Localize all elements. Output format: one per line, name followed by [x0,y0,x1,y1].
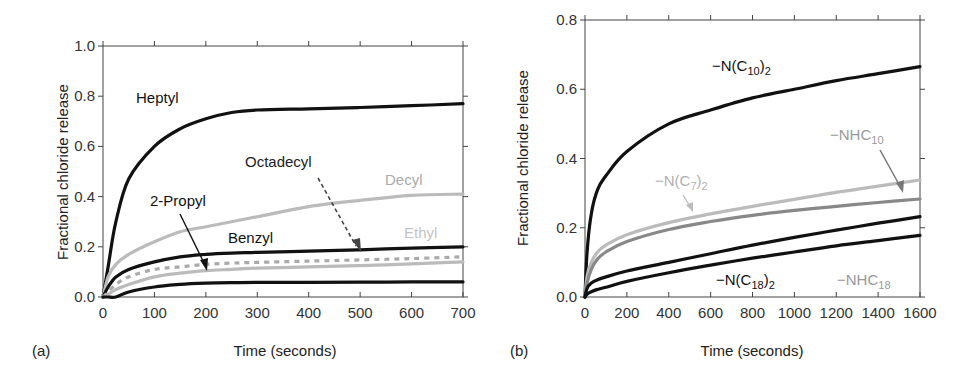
x-tick-label: 0 [581,304,589,321]
y-tick-label: 0.6 [556,80,577,97]
x-tick-label: 400 [296,304,321,321]
series-line [103,282,463,297]
x-tick-label: 400 [656,304,681,321]
nhc10-arrow-icon [880,150,901,188]
y-tick-label: 0.2 [74,238,95,255]
series-line [103,247,463,297]
label-n-c7-2: −N(C7)2 [655,172,708,192]
y-tick-label: 0.4 [74,188,95,205]
n-c7-arrowhead-icon [686,202,693,212]
x-tick-label: 100 [142,304,167,321]
series-line [585,67,920,297]
label-heptyl: Heptyl [136,89,179,106]
label-octadecyl: Octadecyl [245,153,312,170]
y-tick-label: 0.4 [556,150,577,167]
x-tick-label: 200 [193,304,218,321]
x-tick-label: 1400 [861,304,894,321]
y-tick-label: 0.8 [556,11,577,28]
label-2-propyl: 2-Propyl [150,192,206,209]
x-tick-label: 300 [245,304,270,321]
y-axis-label-a: Fractional chloride release [54,84,71,260]
data-lines-b [585,67,920,297]
label-decyl: Decyl [385,171,423,188]
label-ethyl: Ethyl [404,224,437,241]
panel-label-a: (a) [32,342,50,359]
x-tick-label: 500 [348,304,373,321]
label-benzyl: Benzyl [228,229,273,246]
x-tick-label: 600 [399,304,424,321]
x-tick-label: 800 [740,304,765,321]
x-tick-label: 700 [450,304,475,321]
figure: 01002003004005006007000.00.20.40.60.81.0… [0,0,963,378]
series-line [103,262,463,297]
panel-label-b: (b) [510,342,528,359]
y-axis-label-b: Fractional chloride release [514,70,531,246]
octadecyl-arrow-icon [318,178,356,246]
plot-frame-b [585,20,920,297]
y-tick-label: 1.0 [74,37,95,54]
x-axis-label-a: Time (seconds) [234,342,337,359]
x-tick-label: 200 [614,304,639,321]
x-tick-label: 0 [99,304,107,321]
chart-panel-b: 020040060080010001200140016000.00.20.40.… [510,11,937,359]
y-tick-label: 0.8 [74,87,95,104]
x-tick-label: 1200 [820,304,853,321]
y-tick-label: 0.0 [74,288,95,305]
label-n-c10-2: −N(C10)2 [712,57,771,77]
label-n-c18-2: −N(C18)2 [716,271,775,291]
chart-panel-a: 01002003004005006007000.00.20.40.60.81.0… [32,37,476,359]
x-tick-label: 1600 [903,304,936,321]
y-tick-label: 0.2 [556,219,577,236]
x-axis-label-b: Time (seconds) [701,342,804,359]
y-tick-label: 0.6 [74,137,95,154]
y-tick-label: 0.0 [556,288,577,305]
x-tick-label: 1000 [778,304,811,321]
x-tick-label: 600 [698,304,723,321]
propyl-arrowhead-icon [200,258,208,271]
label-nhc18: −NHC18 [837,271,891,291]
label-nhc10: −NHC10 [830,126,884,146]
